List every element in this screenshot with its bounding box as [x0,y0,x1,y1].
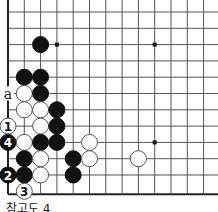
black-stone [16,151,32,167]
black-stone [49,118,65,134]
black-stone [16,167,32,183]
move-number-1: 1 [4,120,12,134]
black-stone [65,167,81,183]
star-point [153,43,157,47]
white-stone [16,102,32,118]
white-stone [130,151,146,167]
black-stone [33,37,49,53]
star-point [55,43,59,47]
black-stone [65,151,81,167]
black-stone [16,69,32,85]
black-stone [49,134,65,150]
white-stone [82,151,98,167]
white-stone [16,134,32,150]
black-stone [33,86,49,102]
black-stone [33,69,49,85]
white-stone [82,134,98,150]
move-number-2: 2 [4,169,12,183]
white-stone [16,86,32,102]
move-number-3: 3 [20,185,28,199]
star-point [153,140,157,144]
white-stone [33,151,49,167]
black-stone [33,134,49,150]
black-stone [49,102,65,118]
white-stone [33,167,49,183]
marker-letter-a: a [4,86,12,102]
white-stone [33,118,49,134]
go-board: a1423 [0,0,218,212]
move-number-4: 4 [4,136,12,150]
diagram-caption: 참고도 4 [6,203,50,212]
white-stone [33,102,49,118]
